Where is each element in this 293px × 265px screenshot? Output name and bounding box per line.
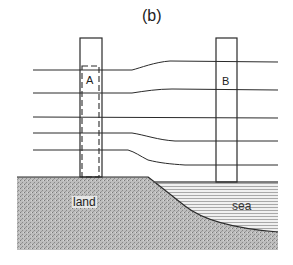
- line-2: [33, 89, 278, 93]
- line-3: [33, 117, 278, 118]
- column-b-outer: [216, 38, 237, 182]
- column-a-label: A: [86, 75, 93, 86]
- horizontal-lines: [33, 61, 278, 165]
- line-4: [33, 133, 278, 141]
- land-label: land: [72, 196, 97, 208]
- diagram-figure: [0, 0, 293, 265]
- line-5: [33, 150, 278, 165]
- figure-title: (b): [142, 8, 162, 24]
- line-1: [33, 61, 278, 70]
- column-b-label: B: [222, 76, 229, 87]
- sea-label: sea: [232, 200, 251, 212]
